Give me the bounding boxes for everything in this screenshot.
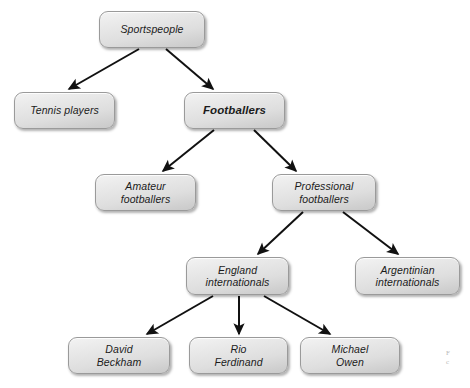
node-label-amateur-footballers: Amateur footballers [117,180,175,205]
node-label-footballers: Footballers [199,104,270,117]
node-rio-ferdinand[interactable]: Rio Ferdinand [189,337,288,374]
node-england-internationals[interactable]: England internationals [186,257,289,295]
edge-sportspeople-to-tennis-players [69,49,139,89]
node-label-tennis-players: Tennis players [26,104,103,117]
node-label-michael-owen: Michael Owen [328,343,373,368]
node-argentinian-internationals[interactable]: Argentinian internationals [355,257,460,295]
edge-england-internationals-to-michael-owen [264,296,330,334]
edge-footballers-to-amateur-footballers [163,130,214,171]
edge-footballers-to-professional-footballers [254,130,296,171]
node-amateur-footballers[interactable]: Amateur footballers [95,174,196,211]
node-label-rio-ferdinand: Rio Ferdinand [210,343,266,368]
node-label-england-internationals: England internationals [202,264,274,289]
node-david-beckham[interactable]: David Beckham [68,337,170,374]
node-label-professional-footballers: Professional footballers [291,180,358,205]
edge-professional-footballers-to-england-internationals [258,212,303,254]
edge-sportspeople-to-footballers [166,49,213,89]
node-michael-owen[interactable]: Michael Owen [300,337,400,374]
node-professional-footballers[interactable]: Professional footballers [272,174,376,211]
node-label-sportspeople: Sportspeople [116,23,187,36]
node-label-argentinian-internationals: Argentinian internationals [372,264,444,289]
edge-layer [0,0,470,388]
hierarchy-diagram: SportspeopleTennis playersFootballersAma… [0,0,470,388]
node-tennis-players[interactable]: Tennis players [14,92,115,129]
node-footballers[interactable]: Footballers [184,92,285,129]
node-label-david-beckham: David Beckham [93,343,145,368]
edge-professional-footballers-to-argentinian-internationals [343,212,398,254]
figure-caption-fragment: F c [446,349,450,367]
node-sportspeople[interactable]: Sportspeople [99,11,205,48]
edge-england-internationals-to-david-beckham [147,296,213,334]
